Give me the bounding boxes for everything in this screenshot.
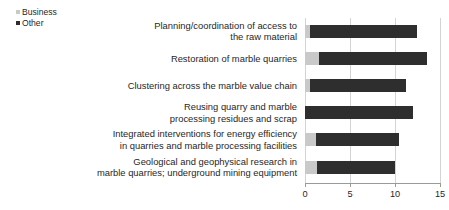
bar-row xyxy=(305,52,427,65)
legend-label-other: Other xyxy=(22,18,44,29)
category-label: Integrated interventions for energy effi… xyxy=(113,128,297,151)
bar-segment-other xyxy=(317,161,395,174)
x-axis-line xyxy=(305,183,440,184)
bar-segment-other xyxy=(305,106,413,119)
category-label: Planning/coordination of access to the r… xyxy=(154,20,297,43)
category-label: Clustering across the marble value chain xyxy=(128,80,297,91)
x-tick-mark-10 xyxy=(395,183,396,187)
bar-segment-other xyxy=(310,25,417,38)
x-tick-mark-0 xyxy=(305,183,306,187)
bar-row xyxy=(305,106,413,119)
gridline-10 xyxy=(395,18,396,183)
bar-segment-other xyxy=(316,133,400,146)
legend-label-business: Business xyxy=(22,7,57,18)
x-tick-label-0: 0 xyxy=(290,189,320,199)
x-tick-mark-5 xyxy=(350,183,351,187)
bar-segment-other xyxy=(310,79,405,92)
legend-item-business: Business xyxy=(16,7,57,18)
bar-row xyxy=(305,161,395,174)
bar-segment-business xyxy=(305,52,319,65)
legend-swatch-business xyxy=(16,10,20,14)
bar-segment-business xyxy=(305,133,316,146)
category-label: Restoration of marble quarries xyxy=(171,53,297,64)
x-tick-label-10: 10 xyxy=(380,189,410,199)
x-tick-label-15: 15 xyxy=(425,189,449,199)
legend-item-other: Other xyxy=(16,18,57,29)
bar-segment-business xyxy=(305,161,317,174)
category-label: Geological and geophysical research in m… xyxy=(97,156,297,179)
bar-row xyxy=(305,25,417,38)
chart-legend: Business Other xyxy=(16,7,57,28)
gridline-5 xyxy=(350,18,351,183)
legend-swatch-other xyxy=(16,21,20,25)
gridline-0 xyxy=(305,18,306,183)
horizontal-stacked-bar-chart: Business Other Planning/coordination of … xyxy=(0,0,449,210)
x-tick-mark-15 xyxy=(440,183,441,187)
bar-row xyxy=(305,133,399,146)
gridline-15 xyxy=(440,18,441,183)
bar-row xyxy=(305,79,406,92)
category-label: Reusing quarry and marble processing res… xyxy=(170,101,297,124)
plot-area xyxy=(305,18,440,183)
x-tick-label-5: 5 xyxy=(335,189,365,199)
bar-segment-other xyxy=(319,52,427,65)
